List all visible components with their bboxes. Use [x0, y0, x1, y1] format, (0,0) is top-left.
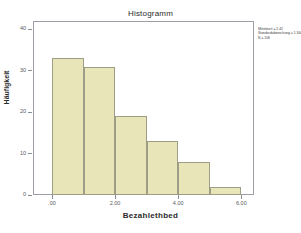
x-tick-label: 2.00 — [101, 200, 129, 206]
y-tick-label: 10 — [0, 150, 26, 156]
y-axis-title: Häufigkeit — [3, 38, 10, 138]
histogram-bar — [210, 187, 242, 195]
n-annotation: N = 106 — [258, 36, 301, 40]
y-tick-mark — [28, 195, 32, 196]
histogram-bar — [115, 116, 147, 195]
histogram-chart: Histogramm 010203040 Häufigkeit .002.004… — [0, 0, 301, 233]
y-tick-mark — [28, 153, 32, 154]
x-tick-label: 4.00 — [164, 200, 192, 206]
histogram-bar — [52, 58, 84, 195]
histogram-bar — [147, 141, 179, 195]
y-tick-mark — [28, 112, 32, 113]
x-tick-label: .00 — [38, 200, 66, 206]
histogram-bar — [84, 67, 116, 195]
x-tick-label: 6.00 — [227, 200, 255, 206]
statistics-annotation: Mittelwert = 2.42 Standardabweichung = 1… — [258, 27, 301, 40]
x-tick-mark — [178, 195, 179, 199]
y-tick-mark — [28, 70, 32, 71]
histogram-bar — [178, 162, 210, 195]
y-tick-label: 0 — [0, 191, 26, 197]
y-tick-label: 40 — [0, 25, 26, 31]
x-tick-mark — [241, 195, 242, 199]
x-tick-mark — [52, 195, 53, 199]
x-tick-mark — [115, 195, 116, 199]
chart-title: Histogramm — [0, 9, 301, 18]
x-axis-title: Bezahlethbed — [0, 211, 301, 220]
plot-area — [33, 21, 254, 195]
y-tick-mark — [28, 29, 32, 30]
